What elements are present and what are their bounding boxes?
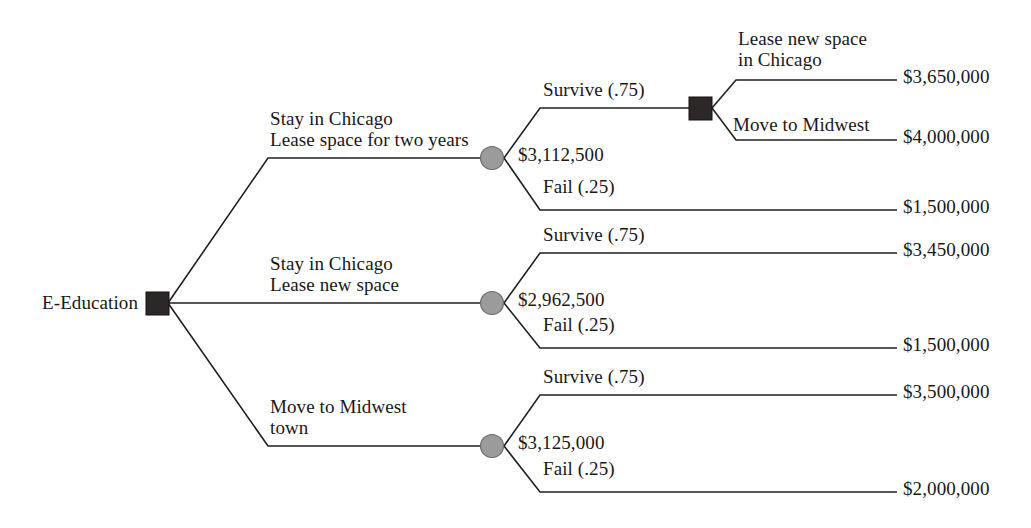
payoff-move-to-midwest: $4,000,000: [903, 126, 990, 147]
sub-decision-node[interactable]: [689, 97, 712, 120]
alt2-label-line1: Stay in Chicago: [270, 253, 393, 274]
subdecision-option1-line1: Lease new space: [738, 28, 867, 49]
alt3-outcome-survive-label: Survive (.75): [543, 366, 645, 387]
payoff-alt2-survive: $3,450,000: [903, 239, 990, 260]
decision-tree-canvas: E-Education Stay in Chicago Lease space …: [0, 0, 1031, 528]
alt2-label-line2: Lease new space: [270, 274, 399, 295]
root-decision-node[interactable]: [146, 292, 169, 315]
alt2-outcome-fail-label: Fail (.25): [543, 314, 615, 335]
alt3-expected-value: $3,125,000: [518, 432, 605, 453]
alt1-expected-value: $3,112,500: [518, 144, 604, 165]
root-label: E-Education: [42, 292, 138, 313]
branch-subdecision-lease-chicago: [712, 80, 897, 108]
chance-node-alt3[interactable]: [481, 435, 504, 458]
chance-node-alt2[interactable]: [481, 292, 504, 315]
alt1-label-line2: Lease space for two years: [270, 129, 469, 150]
alt2-expected-value: $2,962,500: [518, 289, 605, 310]
payoff-alt1-fail: $1,500,000: [903, 196, 990, 217]
alt1-label-line1: Stay in Chicago: [270, 108, 393, 129]
subdecision-option1-line2: in Chicago: [738, 49, 822, 70]
decision-tree-graphics: [0, 0, 1031, 528]
payoff-alt3-fail: $2,000,000: [903, 478, 990, 499]
alt3-outcome-fail-label: Fail (.25): [543, 458, 615, 479]
payoff-alt2-fail: $1,500,000: [903, 334, 990, 355]
payoff-alt3-survive: $3,500,000: [903, 381, 990, 402]
branch-root-to-alt3: [168, 303, 481, 446]
alt1-outcome-survive-label: Survive (.75): [543, 79, 645, 100]
subdecision-option2-line1: Move to Midwest: [733, 114, 870, 135]
payoff-lease-new-space-chicago: $3,650,000: [903, 66, 990, 87]
alt3-label-line2: town: [270, 417, 308, 438]
alt1-outcome-fail-label: Fail (.25): [543, 176, 615, 197]
alt3-label-line1: Move to Midwest: [270, 396, 407, 417]
chance-node-alt1[interactable]: [481, 147, 504, 170]
alt2-outcome-survive-label: Survive (.75): [543, 224, 645, 245]
